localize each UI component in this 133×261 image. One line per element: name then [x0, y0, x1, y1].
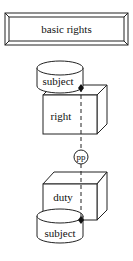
bottom-subject-label: subject: [44, 227, 75, 239]
basic-rights-label: basic rights: [41, 23, 91, 35]
right-label: right: [51, 110, 72, 122]
pp-connector[interactable]: pp: [74, 150, 88, 164]
duty-label: duty: [53, 191, 73, 203]
pp-label: pp: [77, 152, 87, 162]
diagram-canvas: basic rights right subject duty subject …: [0, 0, 133, 261]
top-subject-cylinder[interactable]: subject: [37, 61, 83, 93]
top-subject-label: subject: [42, 75, 73, 87]
bottom-subject-cylinder[interactable]: subject: [37, 209, 83, 243]
basic-rights-box[interactable]: basic rights: [5, 13, 128, 45]
